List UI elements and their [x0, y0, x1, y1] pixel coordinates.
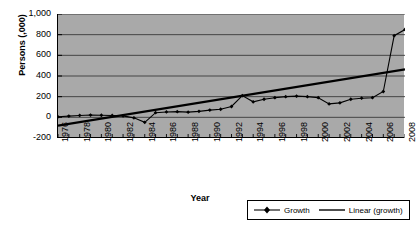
x-tick-label: 1978: [83, 122, 92, 142]
y-tick-label: 1,000: [7, 9, 51, 18]
x-tick-label: 1980: [104, 122, 113, 142]
x-tick-label: 2002: [343, 122, 352, 142]
x-tick-label: 1990: [213, 122, 222, 142]
y-tick-label: 200: [7, 92, 51, 101]
legend-entry-growth: Growth: [254, 205, 310, 215]
x-tick-label: 1984: [148, 122, 157, 142]
x-tick-label: 1996: [278, 122, 287, 142]
legend-label-growth: Growth: [284, 206, 310, 215]
x-tick-label: 1982: [126, 122, 135, 142]
x-tick-label: 1986: [169, 122, 178, 142]
x-tick-label: 2006: [386, 122, 395, 142]
legend-label-linear-growth: Linear (growth): [349, 206, 403, 215]
x-tick-label: 1994: [256, 122, 265, 142]
y-tick-label: 0: [7, 112, 51, 121]
x-tick-label: 1998: [300, 122, 309, 142]
y-tick-label: 400: [7, 71, 51, 80]
x-tick-label: 1988: [191, 122, 200, 142]
plot-svg: [58, 14, 405, 138]
x-axis-tick-labels: 1976197819801982198419861988199019921994…: [57, 140, 404, 190]
chart-legend: Growth Linear (growth): [247, 200, 410, 220]
x-tick-label: 2000: [321, 122, 330, 142]
legend-entry-linear-growth: Linear (growth): [319, 205, 403, 215]
x-tick-label: 1992: [235, 122, 244, 142]
growth-line-chart: Persons (,000) 1,0008006004002000-200 19…: [0, 0, 420, 230]
legend-key-linear-growth-icon: [319, 205, 345, 215]
y-tick-label: 600: [7, 50, 51, 59]
x-tick-label: 2008: [408, 122, 417, 142]
legend-key-growth-icon: [254, 205, 280, 215]
plot-area: [57, 14, 404, 138]
y-tick-label: 800: [7, 30, 51, 39]
gridlines: [58, 14, 405, 138]
y-axis-tick-labels: 1,0008006004002000-200: [5, 0, 51, 230]
y-tick-label: -200: [7, 133, 51, 142]
x-tick-label: 1976: [61, 122, 70, 142]
x-tick-label: 2004: [365, 122, 374, 142]
